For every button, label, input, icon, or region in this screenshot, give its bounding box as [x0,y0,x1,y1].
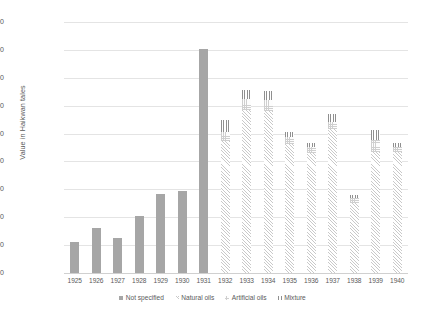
bar-segment[interactable] [285,144,294,273]
bar-segment[interactable] [178,191,187,273]
bar-segment[interactable] [242,110,251,273]
bar-segment[interactable] [156,194,165,273]
y-axis-tick-label: 0 [0,269,4,276]
legend-label: Artificial oils [232,294,267,301]
bar-slot[interactable] [344,22,366,273]
bar-slot[interactable] [64,22,86,273]
stacked-bar[interactable] [307,143,316,273]
bar-segment[interactable] [264,100,273,111]
bar-slot[interactable] [279,22,301,273]
y-axis-tick-label: 1,000,000 [0,130,4,137]
stacked-bar[interactable] [371,130,380,273]
plot-area [64,22,408,273]
stacked-bar[interactable] [264,91,273,273]
bar-slot[interactable] [150,22,172,273]
legend-swatch-icon [225,296,229,300]
x-axis-tick-label: 1936 [301,277,323,284]
bar-segment[interactable] [242,99,251,110]
bar-segment[interactable] [328,114,337,122]
x-axis-tick-label: 1938 [344,277,366,284]
x-axis-tick-label: 1933 [236,277,258,284]
bar-segment[interactable] [70,242,79,273]
gridline [64,273,408,274]
stacked-bar[interactable] [285,132,294,273]
legend-swatch-icon [278,296,282,300]
bar-slot[interactable] [193,22,215,273]
stacked-bar[interactable] [350,195,359,273]
bar-segment[interactable] [307,153,316,273]
x-axis-tick-label: 1931 [193,277,215,284]
bar-slot[interactable] [129,22,151,273]
x-axis-tick-label: 1932 [215,277,237,284]
bar-slot[interactable] [236,22,258,273]
legend-swatch-icon [175,296,179,300]
x-axis-tick-label: 1934 [258,277,280,284]
bar-slot[interactable] [215,22,237,273]
y-axis-tick-label: 1,400,000 [0,74,4,81]
bar-segment[interactable] [264,91,273,100]
bar-segment[interactable] [242,90,251,99]
bar-chart: Value in Haikwan tales 0200,000400,00060… [0,0,425,315]
y-axis-tick-label: 1,600,000 [0,46,4,53]
stacked-bar[interactable] [156,194,165,273]
bar-group [64,22,408,273]
y-axis-tick-label: 400,000 [0,213,4,220]
x-axis-tick-label: 1937 [322,277,344,284]
bar-segment[interactable] [221,132,230,141]
y-axis-tick-label: 600,000 [0,185,4,192]
legend-item[interactable]: Natural oils [175,294,214,301]
stacked-bar[interactable] [178,191,187,273]
x-axis-tick-label: 1929 [150,277,172,284]
x-axis-tick-label: 1925 [64,277,86,284]
stacked-bar[interactable] [135,216,144,273]
bar-slot[interactable] [365,22,387,273]
stacked-bar[interactable] [221,120,230,273]
y-axis-tick-label: 800,000 [0,157,4,164]
legend-item[interactable]: Not specified [119,294,164,301]
legend-label: Natural oils [181,294,214,301]
x-axis-tick-label: 1928 [129,277,151,284]
bar-segment[interactable] [393,152,402,273]
stacked-bar[interactable] [199,49,208,274]
bar-segment[interactable] [371,130,380,140]
bar-segment[interactable] [113,238,122,273]
y-axis-tick-label: 200,000 [0,241,4,248]
bar-slot[interactable] [258,22,280,273]
x-axis-tick-label: 1935 [279,277,301,284]
legend-item[interactable]: Mixture [278,294,306,301]
bar-slot[interactable] [86,22,108,273]
bar-segment[interactable] [264,111,273,273]
bar-slot[interactable] [172,22,194,273]
bar-segment[interactable] [199,49,208,274]
stacked-bar[interactable] [113,238,122,273]
stacked-bar[interactable] [70,242,79,273]
bar-segment[interactable] [221,120,230,132]
chart-legend: Not specifiedNatural oilsArtificial oils… [0,294,425,301]
bar-segment[interactable] [371,140,380,152]
bar-segment[interactable] [135,216,144,273]
bar-segment[interactable] [328,122,337,130]
x-axis-tick-label: 1927 [107,277,129,284]
bar-slot[interactable] [387,22,409,273]
x-axis-tick-label: 1926 [86,277,108,284]
bar-segment[interactable] [92,228,101,273]
bar-segment[interactable] [371,152,380,273]
bar-slot[interactable] [322,22,344,273]
y-axis-tick-label: 1,200,000 [0,102,4,109]
stacked-bar[interactable] [328,114,337,273]
y-axis-title: Value in Haikwan tales [18,53,27,193]
bar-segment[interactable] [350,203,359,273]
bar-segment[interactable] [328,129,337,273]
legend-item[interactable]: Artificial oils [225,294,266,301]
stacked-bar[interactable] [92,228,101,273]
legend-label: Mixture [284,294,306,301]
bar-slot[interactable] [301,22,323,273]
bar-segment[interactable] [221,141,230,273]
x-axis-labels: 1925192619271928192919301931193219331934… [64,277,408,284]
stacked-bar[interactable] [393,143,402,273]
bar-slot[interactable] [107,22,129,273]
legend-swatch-icon [119,296,123,300]
x-axis-tick-label: 1939 [365,277,387,284]
x-axis-tick-label: 1940 [387,277,409,284]
stacked-bar[interactable] [242,90,251,273]
